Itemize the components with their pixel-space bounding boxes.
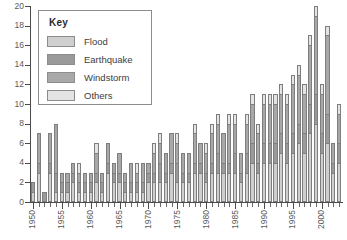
bar-segment-windstorm: [187, 153, 191, 173]
x-axis-minor-tick: [224, 203, 225, 207]
bar-segment-earthquake: [193, 163, 197, 173]
x-axis-tick-label: 2000: [317, 210, 325, 229]
legend-label: Others: [84, 90, 113, 101]
x-axis-minor-tick: [200, 203, 201, 207]
bar-segment-earthquake: [198, 163, 202, 173]
bar-segment-earthquake: [42, 192, 46, 202]
bar-segment-earthquake: [256, 163, 260, 173]
bar-segment-flood: [71, 182, 75, 202]
bar-segment-windstorm: [302, 94, 306, 133]
bar-segment-flood: [141, 192, 145, 202]
bar-1990: [262, 94, 266, 202]
bar-1973: [164, 153, 168, 202]
bar-segment-flood: [302, 153, 306, 202]
x-axis-major-tick: [177, 203, 178, 209]
bar-segment-windstorm: [175, 143, 179, 163]
bar-segment-earthquake: [117, 173, 121, 183]
bar-segment-flood: [164, 182, 168, 202]
bar-1987: [245, 114, 249, 202]
bar-1968: [135, 163, 139, 202]
legend-label: Flood: [84, 36, 108, 47]
bar-1979: [198, 143, 202, 202]
bar-segment-flood: [204, 182, 208, 202]
bar-segment-others: [291, 75, 295, 85]
y-axis-tick: [25, 143, 30, 144]
bar-segment-flood: [83, 192, 87, 202]
x-axis-minor-tick: [189, 203, 190, 207]
bar-1965: [117, 153, 121, 202]
y-axis-tick-label: 20: [0, 2, 24, 10]
bar-segment-earthquake: [146, 173, 150, 183]
x-axis-minor-tick: [287, 203, 288, 207]
x-axis-minor-tick: [68, 203, 69, 207]
bar-segment-earthquake: [216, 153, 220, 173]
bar-segment-windstorm: [129, 163, 133, 183]
bar-segment-flood: [221, 173, 225, 202]
y-axis-tick-label: 0: [0, 198, 24, 206]
y-axis-tick-label: 18: [0, 21, 24, 29]
bar-segment-flood: [100, 192, 104, 202]
bar-segment-earthquake: [141, 182, 145, 192]
bar-segment-earthquake: [71, 173, 75, 183]
x-axis-tick-label: 1970: [144, 210, 152, 229]
bar-segment-others: [325, 26, 329, 36]
bar-segment-windstorm: [164, 153, 168, 173]
x-axis-minor-tick: [166, 203, 167, 207]
bar-segment-flood: [256, 173, 260, 202]
bar-1970: [146, 163, 150, 202]
bar-1961: [94, 143, 98, 202]
legend-swatch-flood: [47, 36, 75, 47]
bar-segment-flood: [60, 192, 64, 202]
bar-segment-flood: [106, 173, 110, 202]
x-axis-minor-tick: [85, 203, 86, 207]
x-axis-minor-tick: [270, 203, 271, 207]
bar-segment-windstorm: [181, 153, 185, 173]
x-axis-minor-tick: [310, 203, 311, 207]
bar-segment-windstorm: [146, 163, 150, 173]
x-axis-minor-tick: [316, 203, 317, 207]
bar-segment-others: [94, 143, 98, 153]
y-axis-tick: [25, 104, 30, 105]
bar-segment-windstorm: [216, 124, 220, 153]
bar-segment-earthquake: [331, 163, 335, 173]
bar-segment-others: [158, 133, 162, 143]
bar-segment-windstorm: [135, 173, 139, 183]
bar-segment-windstorm: [152, 153, 156, 173]
x-axis-minor-tick: [276, 203, 277, 207]
bar-1976: [181, 153, 185, 202]
x-axis-major-tick: [322, 203, 323, 209]
bar-segment-others: [297, 65, 301, 75]
bar-segment-earthquake: [135, 182, 139, 192]
x-axis-line: [30, 202, 343, 203]
y-axis-tick: [25, 163, 30, 164]
bar-segment-earthquake: [31, 182, 35, 192]
bar-segment-earthquake: [325, 114, 329, 143]
bar-segment-earthquake: [302, 133, 306, 153]
bar-segment-flood: [285, 163, 289, 202]
y-axis-tick: [25, 124, 30, 125]
bar-segment-windstorm: [65, 173, 69, 183]
bar-segment-flood: [331, 173, 335, 202]
bar-segment-flood: [146, 182, 150, 202]
bar-segment-windstorm: [337, 114, 341, 143]
bar-segment-earthquake: [83, 182, 87, 192]
y-axis-tick-label: 2: [0, 178, 24, 186]
bar-segment-earthquake: [100, 182, 104, 192]
x-axis-major-tick: [33, 203, 34, 209]
x-axis-minor-tick: [299, 203, 300, 207]
bar-segment-flood: [193, 173, 197, 202]
bar-segment-flood: [175, 182, 179, 202]
bar-segment-windstorm: [71, 163, 75, 173]
bar-1995: [291, 75, 295, 202]
x-axis-major-tick: [264, 203, 265, 209]
bar-segment-earthquake: [262, 143, 266, 163]
legend-label: Earthquake: [84, 54, 133, 65]
y-axis-tick-label: 12: [0, 80, 24, 88]
bar-segment-flood: [320, 153, 324, 202]
x-axis-minor-tick: [125, 203, 126, 207]
bar-1964: [112, 163, 116, 202]
bar-segment-windstorm: [54, 124, 58, 173]
bar-segment-windstorm: [169, 133, 173, 162]
bar-segment-windstorm: [221, 133, 225, 162]
x-axis-minor-tick: [56, 203, 57, 207]
